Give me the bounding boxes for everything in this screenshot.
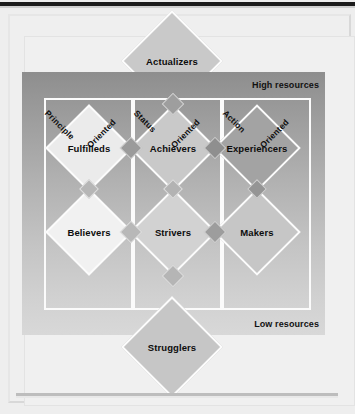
top-rule-highlight: [0, 6, 355, 8]
diamond-label-actualizers: Actualizers: [146, 56, 198, 67]
low-resources-label: Low resources: [254, 319, 319, 329]
diamond-label-makers: Makers: [240, 227, 273, 238]
page-background: Actualizers High resources Low resources…: [0, 0, 355, 414]
bottom-rule-highlight: [16, 396, 338, 398]
diamond-label-strugglers: Strugglers: [148, 342, 197, 353]
diamond-label-experiencers: Experiencers: [227, 143, 288, 154]
diamond-label-strivers: Strivers: [155, 227, 191, 238]
resources-panel: High resources Low resources Fulfilleds …: [22, 72, 325, 335]
high-resources-label: High resources: [252, 80, 319, 90]
diamond-label-believers: Believers: [67, 227, 110, 238]
